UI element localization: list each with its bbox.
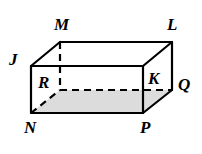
vertex-label-J: J [9, 51, 18, 68]
vertex-label-L: L [167, 16, 177, 33]
vertex-label-M: M [54, 16, 69, 33]
vertex-label-Q: Q [178, 76, 190, 93]
edge-KL [143, 42, 172, 66]
vertex-label-N: N [24, 119, 36, 136]
edge-JM [31, 42, 60, 66]
vertex-label-R: R [38, 74, 49, 91]
geometry-figure-container: MLJKQRNP [0, 0, 202, 154]
bottom-face-shading [31, 90, 172, 113]
vertex-label-P: P [140, 119, 150, 136]
vertex-label-K: K [148, 70, 159, 87]
